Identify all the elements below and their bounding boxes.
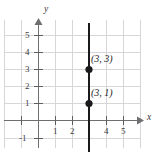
x-tick-label-1: 1 — [53, 127, 58, 136]
y-axis-label: y — [44, 5, 48, 15]
y-tick-label-1: 1 — [25, 99, 30, 108]
y-tick-label-5: 5 — [25, 31, 30, 40]
x-tick-label-5: 5 — [121, 127, 126, 136]
y-tick-label-neg1: -1 — [19, 134, 27, 143]
y-tick-label-3: 3 — [25, 65, 30, 74]
graph-figure: 5 4 3 2 1 -1 1 2 4 5 y x (3, 3) (3, 1) — [0, 0, 158, 155]
x-axis-label: x — [147, 113, 151, 123]
y-axis — [35, 18, 43, 148]
y-tick-label-4: 4 — [25, 48, 30, 57]
arrow-up-icon — [35, 18, 43, 25]
y-tick-label-2: 2 — [25, 82, 30, 91]
point-label-3-1: (3, 1) — [91, 88, 113, 98]
data-point — [85, 100, 92, 107]
point-label-3-3: (3, 3) — [91, 54, 113, 64]
x-tick-label-2: 2 — [70, 127, 75, 136]
data-point — [85, 66, 92, 73]
coordinate-plane-svg — [0, 0, 158, 155]
x-tick-label-4: 4 — [104, 127, 109, 136]
